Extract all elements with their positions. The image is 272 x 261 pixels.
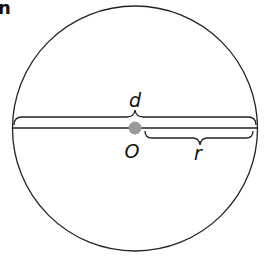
radius-label: r bbox=[194, 142, 203, 164]
center-point bbox=[129, 122, 142, 135]
header-partial-text: n bbox=[0, 0, 11, 18]
center-label: O bbox=[125, 140, 140, 162]
diameter-label: d bbox=[129, 89, 142, 111]
circle-diagram: n d O r bbox=[0, 0, 272, 261]
